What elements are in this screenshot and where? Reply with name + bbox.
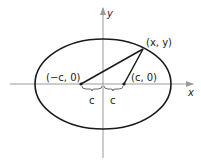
right-focus-label: (c, 0) (131, 72, 157, 83)
ellipse-diagram: (−c, 0) (c, 0) (x, y) c c y x (0, 0, 201, 164)
right-distance-label: c (110, 95, 116, 106)
y-axis-label: y (106, 8, 114, 19)
left-distance-label: c (89, 95, 95, 106)
x-axis-label: x (187, 87, 194, 98)
left-focus-label: (−c, 0) (46, 72, 80, 83)
right-distance-brace (104, 86, 123, 91)
point-label: (x, y) (146, 37, 172, 48)
right-focus-point (122, 82, 125, 85)
left-distance-brace (82, 86, 102, 91)
